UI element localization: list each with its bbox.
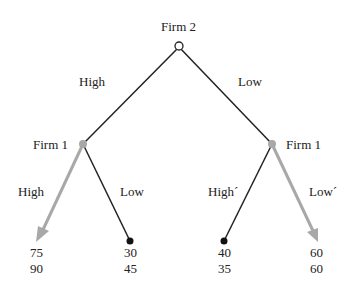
payoff-2-top: 30 <box>124 246 137 260</box>
payoff-1-bottom: 90 <box>30 262 43 276</box>
payoff-2-bottom: 45 <box>124 262 137 276</box>
payoff-3-bottom: 35 <box>218 262 231 276</box>
branch-label-low: Low <box>238 75 262 89</box>
payoff-1-top: 75 <box>30 246 43 260</box>
branch-label-high: High <box>79 75 105 89</box>
left-action-high: High <box>18 185 44 199</box>
left-action-low: Low <box>120 185 144 199</box>
firm1-left-node <box>79 140 87 148</box>
payoff-4-top: 60 <box>310 246 323 260</box>
right-action-low: Low´ <box>309 185 337 199</box>
right-player-label: Firm 1 <box>286 138 321 152</box>
payoff-3-top: 40 <box>218 246 231 260</box>
firm1-right-node <box>268 140 276 148</box>
game-tree-diagram: Firm 2 High Low Firm 1 Firm 1 High Low H… <box>0 0 354 289</box>
left-player-label: Firm 1 <box>33 138 68 152</box>
root-player-label: Firm 2 <box>161 20 196 34</box>
right-action-high: High´ <box>208 185 238 199</box>
payoff-4-bottom: 60 <box>310 262 323 276</box>
root-node <box>175 42 183 50</box>
